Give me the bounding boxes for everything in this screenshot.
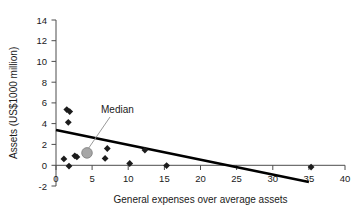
data-point xyxy=(61,156,68,163)
x-axis-ticks xyxy=(56,165,345,170)
y-tick-label-0: 0 xyxy=(42,160,47,171)
y-tick-label-10: 10 xyxy=(36,56,47,67)
x-tick-label-40: 40 xyxy=(340,173,351,184)
scatter-chart: 14 12 10 8 6 4 2 0 -2 0 5 10 15 20 25 30… xyxy=(0,0,362,213)
y-tick-label-2: 2 xyxy=(42,139,47,150)
x-tick-label-5: 5 xyxy=(89,173,94,184)
y-tick-label-6: 6 xyxy=(42,97,47,108)
chart-canvas: 14 12 10 8 6 4 2 0 -2 0 5 10 15 20 25 30… xyxy=(0,0,362,213)
data-point xyxy=(126,160,133,167)
y-tick-label-8: 8 xyxy=(42,77,47,88)
y-tick-label-12: 12 xyxy=(36,35,47,46)
x-tick-label-0: 0 xyxy=(53,173,58,184)
data-point xyxy=(104,145,111,152)
data-point xyxy=(66,163,73,170)
data-point xyxy=(65,119,72,126)
y-tick-label-4: 4 xyxy=(42,118,47,129)
x-axis-title: General expenses over average assets xyxy=(114,194,288,205)
y-tick-label-14: 14 xyxy=(36,15,47,26)
median-data-point xyxy=(82,148,93,159)
y-axis-ticks xyxy=(52,20,57,186)
x-tick-label-25: 25 xyxy=(231,173,242,184)
data-point xyxy=(102,155,109,162)
y-tick-label-minus2: -2 xyxy=(39,181,47,192)
median-annotation-label: Median xyxy=(101,104,134,115)
median-leader-line xyxy=(87,117,110,151)
x-tick-label-15: 15 xyxy=(159,173,170,184)
x-tick-label-20: 20 xyxy=(195,173,206,184)
y-axis-title: Assets (US$1000 million) xyxy=(8,47,19,159)
x-tick-label-10: 10 xyxy=(123,173,134,184)
